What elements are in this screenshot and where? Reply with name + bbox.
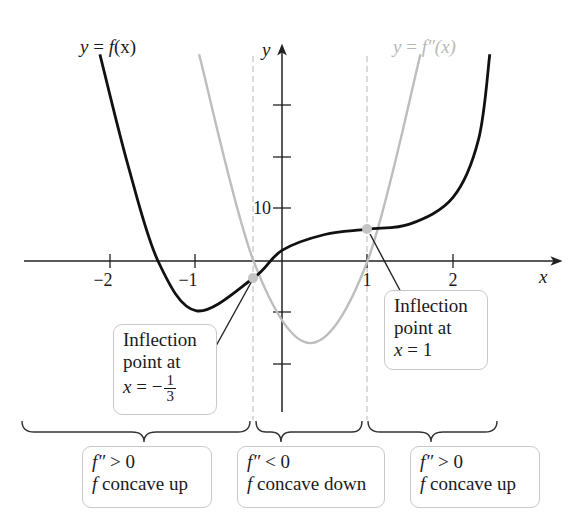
- pointer-line-left: [216, 279, 253, 346]
- x-tick-label: 2: [438, 270, 468, 290]
- inflection-callout-right: Inflection point at x = 1: [384, 290, 488, 370]
- y-axis-label: y: [262, 39, 270, 61]
- x-tick-label: −2: [88, 270, 118, 290]
- brace-right: [368, 421, 497, 442]
- x-tick-label: −1: [173, 270, 203, 290]
- y-tick-label: 10: [247, 198, 277, 218]
- x-tick-label: 1: [352, 270, 382, 290]
- inflection-point-right: [362, 224, 372, 234]
- brace-left: [22, 421, 250, 442]
- f-double-prime-label: y = f″(x): [393, 36, 456, 58]
- region-box-left: f″ > 0 f concave up: [82, 446, 212, 508]
- f-curve: [100, 54, 490, 311]
- region-box-middle: f″ < 0 f concave down: [237, 446, 385, 508]
- region-box-right: f″ > 0 f concave up: [410, 446, 540, 508]
- f-curve-label: y = f(x): [80, 36, 136, 58]
- fraction: 13: [164, 373, 176, 404]
- x-axis-label: x: [539, 266, 547, 288]
- inflection-point-left: [248, 273, 258, 283]
- brace-middle: [256, 421, 362, 442]
- inflection-callout-left: Inflection point at x = −13: [113, 324, 217, 415]
